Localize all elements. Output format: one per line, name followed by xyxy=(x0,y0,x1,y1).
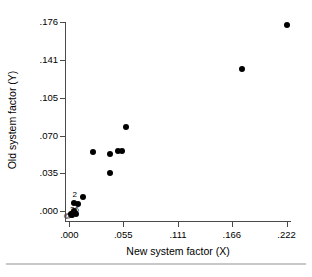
bottom-divider-rule xyxy=(6,263,306,265)
x-axis-tick xyxy=(232,222,233,227)
x-axis-tick-label: .166 xyxy=(212,229,252,240)
data-point xyxy=(123,124,129,130)
y-axis-tick-label-text: .176 xyxy=(28,17,58,27)
x-axis-tick-label: .055 xyxy=(103,229,143,240)
y-axis-tick-label-text: .000 xyxy=(28,206,58,216)
y-axis-tick xyxy=(60,173,65,174)
scatter-plot-figure: 2263@ .000.035.070.105.141.176 .000.055.… xyxy=(0,0,312,277)
x-axis-tick-label: .222 xyxy=(267,229,307,240)
y-axis-tick xyxy=(60,98,65,99)
y-axis-title: Old system factor (Y) xyxy=(6,20,18,220)
point-count-label: 2 xyxy=(73,191,77,199)
x-axis-tick xyxy=(287,222,288,227)
x-axis-title: New system factor (X) xyxy=(65,245,291,257)
data-point xyxy=(107,151,113,157)
x-axis-tick xyxy=(178,222,179,227)
y-axis-tick xyxy=(60,136,65,137)
data-point xyxy=(239,66,245,72)
data-point xyxy=(90,149,96,155)
y-axis-tick-label-text: .035 xyxy=(28,168,58,178)
x-axis-tick xyxy=(69,222,70,227)
y-axis-tick-label-text: .141 xyxy=(28,55,58,65)
y-axis-tick-label: .000 xyxy=(22,206,58,216)
y-axis-tick xyxy=(60,211,65,212)
y-axis-line xyxy=(65,22,66,222)
data-point xyxy=(107,170,113,176)
data-point xyxy=(115,148,121,154)
x-axis-tick-label: .111 xyxy=(158,229,198,240)
y-axis-tick-label: .035 xyxy=(22,168,58,178)
y-axis-tick-label: .070 xyxy=(22,131,58,141)
y-axis-tick-label-text: .070 xyxy=(28,131,58,141)
data-point xyxy=(284,22,290,28)
y-axis-tick-label: .141 xyxy=(22,55,58,65)
data-point xyxy=(80,194,86,200)
y-axis-tick-label: .176 xyxy=(22,17,58,27)
y-axis-tick xyxy=(60,60,65,61)
y-axis-tick-label: .105 xyxy=(22,93,58,103)
y-axis-tick xyxy=(60,22,65,23)
x-axis-tick-label: .000 xyxy=(49,229,89,240)
y-axis-tick-label-text: .105 xyxy=(28,93,58,103)
x-axis-tick xyxy=(123,222,124,227)
